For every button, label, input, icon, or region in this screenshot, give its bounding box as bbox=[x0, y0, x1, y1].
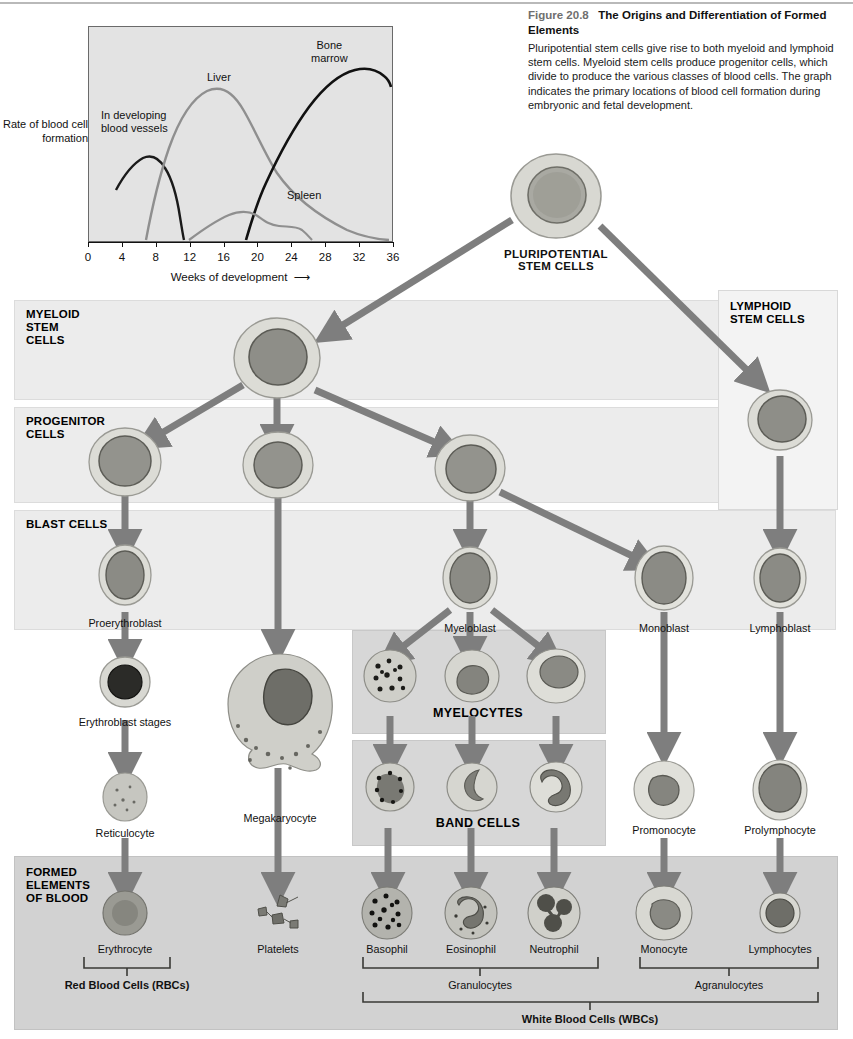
bracket-wbc bbox=[363, 992, 818, 1002]
bracket-granulocytes bbox=[363, 957, 598, 968]
bracket-label-granulocytes: Granulocytes bbox=[448, 979, 512, 991]
bracket-label-wbc: White Blood Cells (WBCs) bbox=[522, 1013, 658, 1025]
bracket-label-rbc: Red Blood Cells (RBCs) bbox=[65, 979, 190, 991]
figure-stage: Figure 20.8 The Origins and Differentiat… bbox=[0, 0, 853, 1039]
bracket-layer bbox=[0, 0, 853, 1039]
bracket-label-agranulocytes: Agranulocytes bbox=[695, 979, 763, 991]
bracket-agranulocytes bbox=[640, 957, 818, 968]
bracket-rbc bbox=[84, 957, 170, 968]
